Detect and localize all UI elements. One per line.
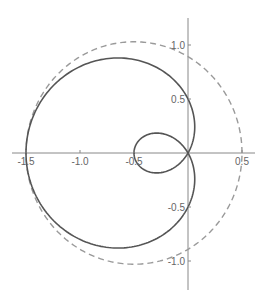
y-tick-label: -1.0 (168, 256, 186, 267)
x-tick-label: -1.0 (71, 156, 89, 167)
polar-plot: -1.5-1.0-0.50.51.00.5-0.5-1.0 (0, 0, 266, 301)
y-tick-label: -0.5 (168, 202, 186, 213)
x-tick-label: 0.5 (235, 156, 249, 167)
y-tick-label: 0.5 (171, 94, 185, 105)
y-tick-label: 1.0 (171, 40, 185, 51)
x-tick-label: -1.5 (17, 156, 35, 167)
x-tick-label: -0.5 (125, 156, 143, 167)
